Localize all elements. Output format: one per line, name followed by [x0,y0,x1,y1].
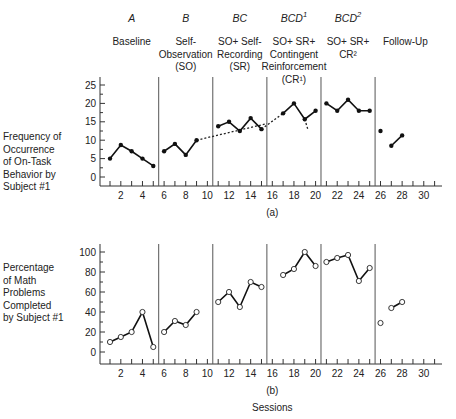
phase-header-4: BCD2SO+ SR+CR² [327,10,370,60]
data-point [357,109,361,113]
y-tick-label: 5 [90,153,96,164]
phase-description: Recording [217,49,263,60]
data-point [162,149,166,153]
phase-description: SO+ SR+ [327,36,370,47]
phase-code-sup: 2 [356,10,362,19]
x-tick-label: 2 [118,190,124,201]
data-line [218,282,261,307]
data-point [335,255,340,260]
x-tick-label: 24 [353,368,365,379]
data-point [389,144,393,148]
data-point [367,265,372,270]
data-point [302,249,307,254]
x-tick-label: 6 [161,190,167,201]
data-series [324,252,372,283]
data-point [216,124,220,128]
data-point [227,120,231,124]
y-tick-label: 25 [85,80,97,91]
y-axis-label: Occurrence [3,144,55,155]
data-point [345,252,350,257]
phase-description: Follow-Up [383,36,428,47]
x-tick-label: 28 [397,368,409,379]
x-tick-label: 22 [332,368,344,379]
data-point [259,284,264,289]
x-tick-label: 20 [310,368,322,379]
y-tick-label: 100 [79,247,96,258]
panel-a: Frequency ofOccurrenceof On-TaskBehavior… [3,77,442,218]
data-point [140,309,145,314]
x-tick-label: 24 [353,190,365,201]
x-tick-label: 30 [418,190,430,201]
data-point [400,299,405,304]
data-point [118,334,123,339]
phase-header-2: BCSO+ Self-Recording(SR) [217,12,263,72]
data-series [324,98,372,113]
y-axis-label: Problems [3,287,45,298]
data-line [283,252,315,275]
data-point [194,138,198,142]
y-tick-label: 20 [85,327,97,338]
data-series [378,299,405,325]
data-point [259,127,263,131]
phase-code: B [182,12,189,24]
phase-description: Self- [175,36,196,47]
phase-code: BCD2 [335,10,362,24]
multiple-baseline-chart: ABaselineBSelf-Observation(SO)BCSO+ Self… [0,0,456,419]
data-point [389,305,394,310]
trend-dashed-line [261,113,283,129]
data-point [183,322,188,327]
y-axis-label: Subject #1 [3,181,51,192]
data-point [172,318,177,323]
data-point [346,98,350,102]
data-point [313,263,318,268]
y-axis-label: Behavior by [3,169,56,180]
data-point [173,142,177,146]
trend-dashed-line [197,124,267,141]
data-point [216,299,221,304]
data-point [151,344,156,349]
y-tick-label: 15 [85,116,97,127]
y-tick-label: 0 [90,347,96,358]
phase-header-1: BSelf-Observation(SO) [159,12,213,72]
data-point [194,309,199,314]
data-point [356,278,361,283]
phase-description: (SR) [230,61,251,72]
x-tick-label: 4 [140,368,146,379]
y-tick-label: 20 [85,98,97,109]
x-tick-label: 18 [288,190,300,201]
data-point [292,101,296,105]
data-line [110,145,153,166]
x-tick-label: 28 [397,190,409,201]
y-tick-label: 80 [85,267,97,278]
x-tick-label: 14 [245,368,257,379]
x-tick-label: 12 [223,190,235,201]
data-line [164,140,196,155]
data-point [129,329,134,334]
data-point [378,129,382,133]
data-series [107,309,155,349]
x-tick-label: 4 [140,190,146,201]
data-line [164,312,196,332]
data-series [162,138,199,157]
phase-code-sup: 1 [303,10,307,19]
x-tick-label: 8 [183,368,189,379]
x-tick-label: 12 [223,368,235,379]
phase-description: (CR¹) [282,74,306,85]
data-point [248,116,252,120]
x-tick-label: 26 [375,190,387,201]
data-point [151,164,155,168]
data-series [281,101,318,121]
data-point [108,156,112,160]
phase-description: (SO) [175,61,196,72]
y-axis-label: of Math [3,275,36,286]
data-point [400,133,404,137]
data-line [283,103,315,119]
data-point [107,339,112,344]
data-line [391,135,402,145]
data-point [367,109,371,113]
data-point [119,143,123,147]
phase-header-3: BCD1SO+ SR+ContingentReinforcement(CR¹) [261,10,326,85]
data-point [162,329,167,334]
x-tick-label: 30 [418,368,430,379]
phase-description: CR² [339,49,357,60]
